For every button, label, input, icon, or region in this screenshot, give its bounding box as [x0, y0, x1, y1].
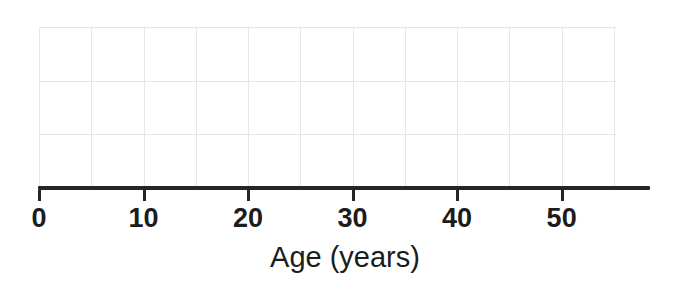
x-axis-tick-label: 30 [313, 205, 393, 232]
gridline-vertical [144, 27, 145, 188]
x-axis-tick [561, 190, 564, 201]
gridline-vertical [300, 27, 301, 188]
x-axis-tick-label: 50 [522, 205, 602, 232]
gridline-vertical [562, 27, 563, 188]
gridline-horizontal [39, 81, 616, 82]
x-axis-tick-label: 20 [208, 205, 288, 232]
gridline-vertical [457, 27, 458, 188]
x-axis-tick-label: 10 [104, 205, 184, 232]
x-axis-tick [352, 190, 355, 201]
x-axis-tick [38, 190, 41, 201]
gridline-vertical [509, 27, 510, 188]
chart-figure: 01020304050 Age (years) [0, 0, 690, 289]
gridline-vertical [91, 27, 92, 188]
gridline-vertical [353, 27, 354, 188]
gridline-vertical [248, 27, 249, 188]
x-axis-tick [247, 190, 250, 201]
x-axis-line [38, 186, 650, 190]
gridline-vertical [196, 27, 197, 188]
gridline-horizontal [39, 134, 616, 135]
x-axis-tick-label: 0 [0, 205, 79, 232]
x-axis-tick [143, 190, 146, 201]
x-axis-tick-label: 40 [417, 205, 497, 232]
gridline-vertical [614, 27, 615, 188]
plot-area [39, 27, 616, 188]
gridline-vertical [39, 27, 40, 188]
gridline-horizontal [39, 27, 616, 28]
gridline-vertical [405, 27, 406, 188]
x-axis-title: Age (years) [195, 243, 495, 272]
x-axis-tick [456, 190, 459, 201]
